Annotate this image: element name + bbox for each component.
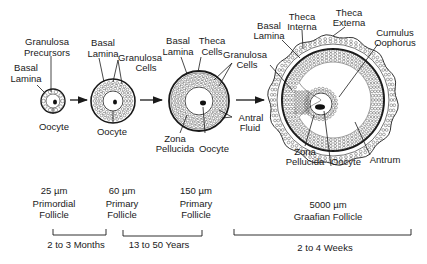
- cell: [59, 105, 63, 109]
- cell: [95, 108, 98, 111]
- cell: [205, 121, 208, 124]
- cell: [212, 82, 215, 85]
- cell: [102, 108, 105, 111]
- label-basal-lamina-2b: Lamina: [87, 48, 119, 59]
- cell: [178, 111, 181, 114]
- cell: [48, 108, 52, 112]
- cell: [193, 118, 196, 121]
- cell: [214, 100, 217, 103]
- cell: [193, 81, 196, 84]
- cell: [115, 84, 118, 87]
- label-antrum: Antrum: [370, 154, 401, 165]
- cell: [191, 124, 194, 127]
- cell: [54, 90, 58, 94]
- cell: [217, 104, 220, 107]
- size-primary-150: 150 µm: [180, 185, 212, 196]
- cell: [223, 103, 226, 106]
- label-basal-lamina-1a: Basal: [14, 62, 38, 73]
- cell: [217, 88, 220, 91]
- label-basal-lamina-1b: Lamina: [10, 73, 42, 84]
- cell: [105, 89, 108, 92]
- cell: [172, 98, 175, 101]
- cell: [119, 86, 122, 89]
- leader-basal-lamina-1: [37, 85, 44, 92]
- cell: [172, 102, 175, 105]
- label-antral-fluid-b: Fluid: [240, 122, 261, 133]
- cell: [109, 87, 112, 90]
- cell: [114, 87, 117, 90]
- cell: [106, 85, 109, 88]
- cell: [207, 86, 210, 89]
- cell: [212, 117, 215, 120]
- primary150-nucleus: [200, 101, 206, 106]
- cell: [174, 90, 177, 93]
- primary150-theca-ring: [171, 73, 227, 129]
- cell: [202, 77, 205, 80]
- cell: [178, 102, 181, 105]
- label-oocyte-2: Oocyte: [97, 126, 127, 137]
- cell: [116, 118, 119, 121]
- label-granulosa-precursors-b: Precursors: [24, 47, 70, 58]
- cell: [201, 119, 204, 122]
- primary150-zona-ring: [185, 87, 213, 115]
- cell: [208, 116, 211, 119]
- cell: [109, 112, 112, 115]
- cell: [119, 113, 122, 116]
- cell: [187, 76, 190, 79]
- bracket-13-50-years: [123, 230, 202, 236]
- cell: [103, 112, 106, 115]
- cell: [97, 106, 100, 109]
- cell: [194, 77, 197, 80]
- name-primordial-b: Follicle: [39, 209, 69, 220]
- cell: [126, 111, 129, 114]
- cell: [219, 107, 222, 110]
- label-granulosa-cells-3b: Cells: [236, 59, 257, 70]
- cell: [125, 108, 128, 111]
- size-primordial: 25 µm: [41, 185, 68, 196]
- cell: [100, 104, 103, 107]
- label-theca-externa-b: Externa: [333, 17, 366, 28]
- label-oocyte-4: Oocyte: [331, 156, 361, 167]
- label-theca-cells-a: Theca: [199, 35, 226, 46]
- cell: [186, 80, 189, 83]
- cell: [204, 118, 207, 121]
- cell: [191, 75, 194, 78]
- label-theca-interna-b: Interna: [287, 21, 317, 32]
- label-zona-pellucida-3b: Pellucida: [156, 143, 195, 154]
- cell: [216, 117, 219, 120]
- primary60-oocyte-ring: [103, 91, 123, 111]
- cell: [219, 92, 222, 95]
- cell: [178, 116, 181, 119]
- name-primary-150-a: Primary: [180, 198, 213, 209]
- cell: [174, 109, 177, 112]
- cell: [178, 88, 181, 91]
- cell: [215, 114, 218, 117]
- name-primordial-a: Primordial: [33, 198, 76, 209]
- cell: [200, 116, 203, 119]
- cell: [42, 99, 46, 103]
- cell: [223, 100, 226, 103]
- size-primary-60: 60 µm: [109, 185, 136, 196]
- cell: [189, 117, 192, 120]
- cell: [179, 94, 182, 97]
- name-primary-60-b: Follicle: [107, 209, 137, 220]
- label-theca-cells-b: Cells: [201, 46, 222, 57]
- graafian-nucleus: [315, 104, 325, 110]
- cell: [190, 121, 193, 124]
- label-basal-lamina-2a: Basal: [91, 37, 115, 48]
- primordial-nucleus: [53, 99, 57, 104]
- cell: [106, 114, 109, 117]
- cell: [94, 95, 97, 98]
- cell: [195, 125, 198, 128]
- cell: [44, 105, 48, 109]
- cell: [127, 95, 130, 98]
- cell: [128, 92, 131, 95]
- label-granulosa-precursors-a: Granulosa: [25, 36, 70, 47]
- cell: [100, 109, 103, 112]
- cell: [176, 92, 179, 95]
- cell: [186, 119, 189, 122]
- cell: [54, 108, 58, 112]
- duration-13-50-years: 13 to 50 Years: [129, 239, 190, 250]
- cell: [178, 83, 181, 86]
- cell: [216, 107, 219, 110]
